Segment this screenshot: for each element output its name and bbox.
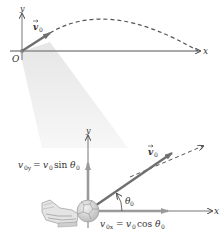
svg-text:0: 0 — [132, 223, 136, 230]
magnification-cone — [20, 42, 128, 148]
svg-text:v: v — [43, 160, 48, 170]
projectile-motion-diagram: x y O v 0 y x v 0 — [0, 0, 222, 235]
top-y-axis-label: y — [19, 4, 25, 13]
svg-text:0x: 0x — [106, 223, 114, 230]
svg-text:0: 0 — [76, 164, 80, 171]
svg-text:sin: sin — [54, 160, 67, 170]
shoe-illustration — [42, 200, 78, 227]
angle-label: θ 0 — [125, 196, 134, 207]
vx-equation: v 0x = v 0 cos θ 0 — [100, 219, 165, 230]
trajectory-path — [50, 19, 198, 51]
angle-arc — [117, 194, 122, 211]
svg-text:0: 0 — [154, 151, 158, 158]
origin-label: O — [12, 54, 20, 64]
top-x-axis-label: x — [203, 46, 208, 56]
velocity-direction-dashed — [130, 146, 203, 177]
svg-text:=: = — [33, 160, 41, 170]
bottom-x-axis-label: x — [214, 206, 219, 216]
svg-text:0: 0 — [161, 223, 165, 230]
svg-text:0: 0 — [39, 26, 43, 33]
vy-equation: v 0y = v 0 sin θ 0 — [18, 160, 80, 172]
svg-text:=: = — [116, 219, 124, 229]
bottom-velocity-label: v 0 — [148, 145, 158, 158]
svg-text:0y: 0y — [24, 164, 32, 172]
svg-text:v: v — [100, 219, 105, 229]
soccer-ball — [77, 200, 99, 222]
svg-text:v: v — [18, 160, 23, 170]
svg-text:0: 0 — [49, 164, 53, 171]
svg-text:v: v — [126, 219, 131, 229]
top-velocity-label: v 0 — [33, 20, 43, 33]
svg-text:0: 0 — [130, 200, 134, 207]
bottom-y-axis-label: y — [85, 126, 91, 135]
svg-text:cos: cos — [137, 219, 152, 229]
